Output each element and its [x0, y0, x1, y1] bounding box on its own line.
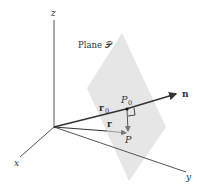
normal-label: n — [182, 89, 189, 99]
vector-r — [54, 127, 107, 131]
plane-label: Plane 𝒫 — [78, 40, 113, 50]
z-axis-label: z — [50, 8, 56, 18]
point-p0 — [125, 107, 128, 110]
p-label: P — [124, 134, 132, 145]
x-axis-label: x — [14, 158, 19, 168]
p0-subscript: 0 — [128, 99, 132, 107]
r0-label: r — [99, 103, 104, 113]
p0-label: P — [120, 94, 128, 105]
r-label: r — [107, 119, 112, 129]
r0-subscript: 0 — [105, 107, 109, 115]
x-axis — [20, 127, 54, 157]
y-axis-label: y — [185, 172, 192, 182]
plane-normal-diagram: z x y Plane 𝒫 n r 0 r P 0 P — [0, 0, 197, 187]
